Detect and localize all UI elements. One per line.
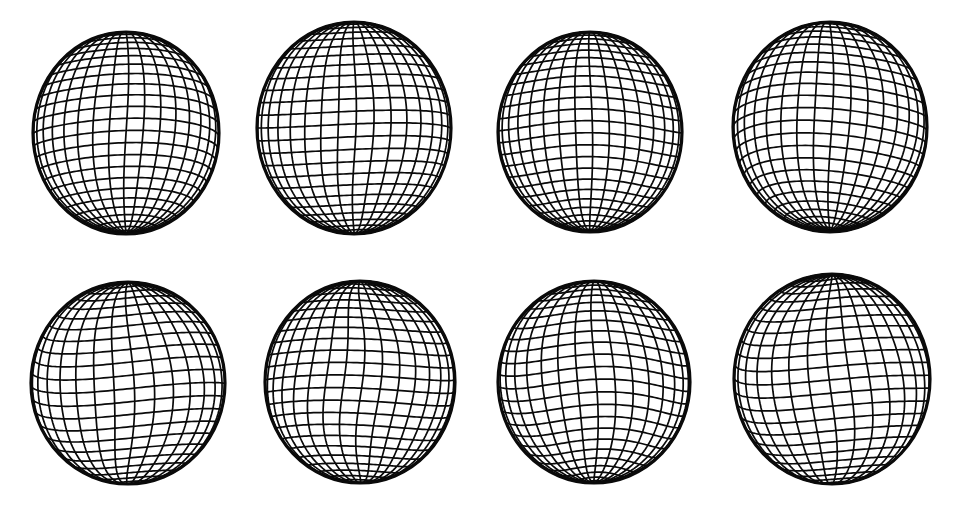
sphere-panel-2-2 xyxy=(251,267,469,497)
sphere-mesh-figure xyxy=(0,0,980,505)
sphere-panel-2-1 xyxy=(243,8,465,248)
sphere-mesh-sphere-1 xyxy=(19,18,233,248)
sphere-mesh-sphere-5 xyxy=(17,268,239,498)
sphere-panel-4-2 xyxy=(720,260,944,498)
sphere-panel-4-1 xyxy=(719,8,941,246)
sphere-mesh-sphere-8 xyxy=(720,260,944,498)
sphere-mesh-sphere-2 xyxy=(243,8,465,248)
sphere-mesh-sphere-6 xyxy=(251,267,469,497)
sphere-panel-1-2 xyxy=(17,268,239,498)
sphere-mesh-sphere-4 xyxy=(719,8,941,246)
sphere-mesh-sphere-3 xyxy=(484,18,696,246)
sphere-panel-3-1 xyxy=(484,18,696,246)
sphere-mesh-sphere-7 xyxy=(484,267,704,497)
sphere-panel-1-1 xyxy=(19,18,233,248)
sphere-panel-3-2 xyxy=(484,267,704,497)
